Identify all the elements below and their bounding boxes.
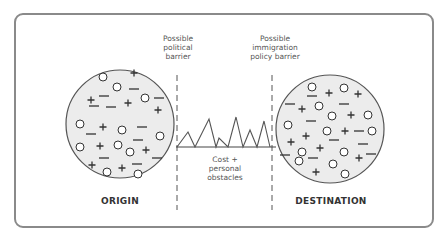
label-line: Possible — [150, 34, 206, 43]
neutral-symbol — [156, 132, 164, 140]
neutral-symbol — [298, 148, 306, 156]
neutral-symbol — [103, 168, 111, 176]
label-line: Possible — [242, 34, 308, 43]
neutral-symbol — [126, 148, 134, 156]
neutral-symbol — [364, 111, 372, 119]
neutral-symbol — [368, 127, 376, 135]
label-line: obstacles — [195, 173, 255, 182]
neutral-symbol — [118, 126, 126, 134]
neutral-symbol — [295, 157, 303, 165]
neutral-symbol — [284, 121, 292, 129]
neutral-symbol — [141, 94, 149, 102]
obstacles-label: Cost + personal obstacles — [195, 155, 255, 182]
label-line: barrier — [150, 52, 206, 61]
label-line: personal — [195, 164, 255, 173]
neutral-symbol — [99, 73, 107, 81]
label-line: policy barrier — [242, 52, 308, 61]
neutral-symbol — [340, 148, 348, 156]
origin-label: ORIGIN — [90, 196, 150, 206]
label-line: immigration — [242, 43, 308, 52]
neutral-symbol — [76, 143, 84, 151]
neutral-symbol — [329, 160, 337, 168]
neutral-symbol — [308, 83, 316, 91]
label-line: Cost + — [195, 155, 255, 164]
destination-label: DESTINATION — [290, 196, 372, 206]
neutral-symbol — [76, 120, 84, 128]
neutral-symbol — [114, 141, 122, 149]
neutral-symbol — [315, 102, 323, 110]
immigration-barrier-label: Possible immigration policy barrier — [242, 34, 308, 61]
political-barrier-label: Possible political barrier — [150, 34, 206, 61]
neutral-symbol — [340, 84, 348, 92]
neutral-symbol — [134, 170, 142, 178]
neutral-symbol — [328, 112, 336, 120]
label-line: political — [150, 43, 206, 52]
neutral-symbol — [323, 127, 331, 135]
migration-diagram — [0, 0, 448, 242]
obstacles-zigzag — [177, 117, 270, 147]
neutral-symbol — [113, 83, 121, 91]
neutral-symbol — [341, 170, 349, 178]
